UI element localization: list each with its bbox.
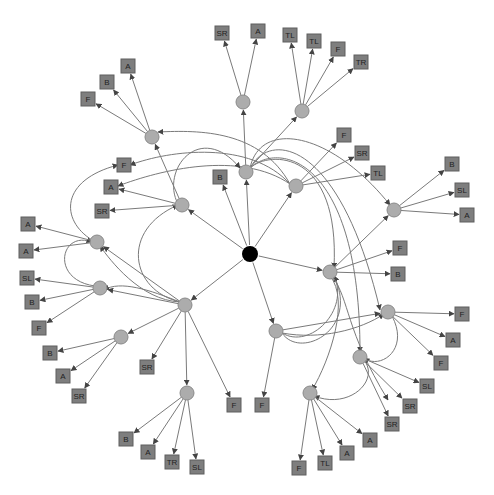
leaf-node: SR (72, 389, 86, 403)
edge-h7-l15 (399, 170, 444, 205)
leaf-label: A (145, 448, 151, 457)
edge-h7-l16 (401, 192, 454, 208)
leaf-label: F (439, 359, 444, 368)
leaf-node: SR (403, 399, 417, 413)
leaf-label: F (342, 131, 347, 140)
curved-edge (282, 314, 384, 335)
leaf-node: F (81, 92, 95, 106)
leaf-node: A (446, 333, 460, 347)
edge-root-h13 (253, 263, 274, 324)
leaf-node: F (455, 307, 469, 321)
leaf-node: TL (283, 28, 297, 42)
leaf-node: F (434, 356, 448, 370)
leaf-node: A (56, 369, 70, 383)
leaf-node: A (460, 208, 474, 222)
leaf-label: SR (356, 149, 367, 158)
leaf-label: A (367, 436, 373, 445)
curved-edge (250, 159, 334, 268)
edge-h11-l36 (188, 311, 230, 397)
edge-h2-l6 (307, 69, 353, 107)
edge-h7-l17 (401, 210, 459, 214)
curved-edge (314, 360, 368, 400)
edge-h8-l21 (34, 243, 90, 250)
leaf-label: B (449, 160, 454, 169)
leaf-label: B (47, 349, 52, 358)
leaf-node: F (117, 158, 131, 172)
edge-h11-h8 (104, 247, 180, 301)
edge-h9-h7 (335, 216, 388, 268)
leaf-label: B (104, 78, 109, 87)
leaf-node: A (141, 445, 155, 459)
leaf-label: TL (285, 31, 295, 40)
edge-h16-l44 (311, 400, 323, 455)
edge-h13-l37 (264, 338, 275, 397)
leaf-node: B (445, 157, 459, 171)
leaf-node: B (119, 432, 133, 446)
leaf-node: TL (307, 34, 321, 48)
edge-h15-l38 (363, 363, 388, 416)
edge-h17-l40 (134, 397, 181, 433)
leaf-node: SR (385, 417, 399, 431)
curved-edge (130, 152, 290, 184)
edge-h1-l2 (244, 39, 256, 95)
leaf-label: SL (192, 463, 202, 472)
edge-h6-l19 (110, 206, 175, 211)
edge-root-h4 (246, 180, 249, 245)
edge-root-h11 (191, 260, 243, 301)
leaf-node: SL (190, 460, 204, 474)
edge-h12-l27 (395, 312, 454, 314)
leaf-node: F (255, 398, 269, 412)
leaf-label: TR (356, 58, 367, 67)
hub-node (381, 305, 395, 319)
edge-h11-h14 (128, 308, 179, 333)
leaf-label: SR (404, 402, 415, 411)
network-diagram: SRATLTLFTRABFFSRTLFBBSLAASRAAFBSLBFFSRAB… (0, 0, 494, 495)
edge-h11-h17 (185, 312, 187, 385)
leaf-node: F (292, 461, 306, 475)
leaf-label: B (395, 270, 400, 279)
edge-h14-l32 (71, 341, 115, 371)
edge-root-l14 (223, 185, 247, 246)
leaf-node: A (19, 244, 33, 258)
leaf-label: F (122, 161, 127, 170)
hub-node (303, 386, 317, 400)
hub-node (295, 104, 309, 118)
edge-h11-h10 (108, 290, 178, 304)
hub-node (180, 386, 194, 400)
leaf-label: A (108, 183, 114, 192)
hub-node (175, 198, 189, 212)
edge-h6-l18 (119, 189, 175, 203)
leaf-label: TL (373, 169, 383, 178)
edge-h17-l41 (153, 399, 183, 444)
leaf-node: SR (140, 360, 154, 374)
hub-node (178, 298, 192, 312)
edge-h3-l8 (114, 90, 148, 132)
root-node-circle (242, 246, 258, 262)
hub-node (114, 330, 128, 344)
leaf-label: F (398, 244, 403, 253)
leaf-node: TL (318, 456, 332, 470)
edge-h16-l39 (316, 397, 362, 433)
leaf-node: TL (371, 166, 385, 180)
leaf-node: B (100, 75, 114, 89)
leaf-label: B (29, 298, 34, 307)
leaf-node: B (391, 267, 405, 281)
leaf-label: F (86, 95, 91, 104)
leaf-node: SR (355, 146, 369, 160)
curved-edge (282, 276, 338, 337)
curved-edge (100, 246, 180, 302)
leaf-label: A (60, 372, 66, 381)
edge-h2-l3 (291, 43, 301, 104)
leaf-label: TL (309, 37, 319, 46)
leaf-node: A (104, 180, 118, 194)
leaf-node: F (32, 321, 46, 335)
leaf-node: F (331, 42, 345, 56)
leaf-label: A (255, 27, 261, 36)
leaf-node: B (25, 295, 39, 309)
edge-root-h9 (259, 256, 322, 270)
edge-root-h5 (255, 193, 291, 247)
edge-h8-l20 (36, 226, 90, 240)
edge-h16-l42 (314, 399, 342, 445)
leaf-label: B (217, 173, 222, 182)
leaf-label: TL (320, 459, 330, 468)
